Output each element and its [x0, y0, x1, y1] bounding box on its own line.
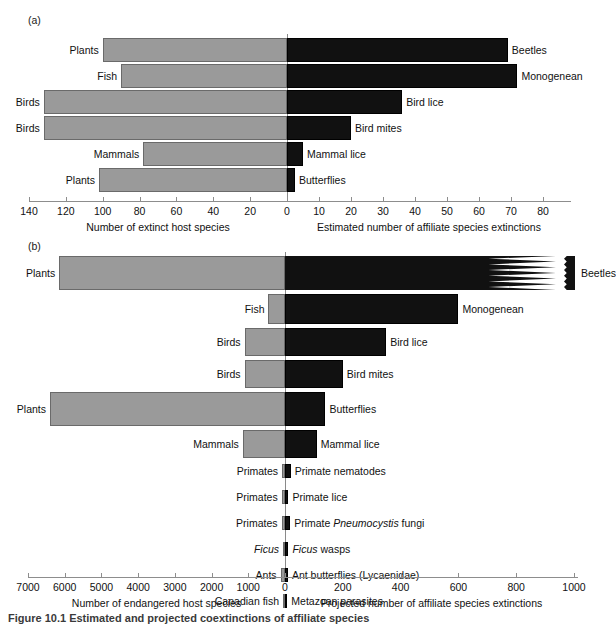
affiliate-bar-break-segment[interactable] — [564, 256, 575, 290]
axis-tick — [65, 573, 66, 577]
host-bar[interactable] — [44, 90, 287, 114]
affiliate-bar[interactable] — [285, 294, 458, 324]
x-axis-line — [28, 577, 578, 578]
host-bar[interactable] — [99, 168, 287, 192]
bar-row: FishMonogenean — [0, 64, 601, 88]
axis-tick — [138, 573, 139, 577]
affiliate-bar[interactable] — [287, 142, 303, 166]
axis-tick — [319, 197, 320, 201]
axis-tick — [29, 197, 30, 201]
affiliate-bar[interactable] — [285, 490, 288, 504]
host-bar[interactable] — [121, 64, 287, 88]
axis-tick — [285, 573, 286, 577]
affiliate-label: Primate nematodes — [295, 466, 386, 477]
host-bar[interactable] — [245, 360, 285, 388]
host-label: Mammals — [193, 439, 239, 450]
axis-tick — [212, 573, 213, 577]
host-bar[interactable] — [245, 328, 285, 356]
axis-tick — [175, 573, 176, 577]
host-bar[interactable] — [59, 256, 285, 290]
right-tick-400: 400 — [376, 581, 426, 593]
affiliate-label: Mammal lice — [307, 149, 366, 160]
panel-a: (a) PlantsBeetlesFishMonogeneanBirdsBird… — [0, 0, 601, 232]
axis-tick — [140, 197, 141, 201]
affiliate-bar[interactable] — [285, 392, 325, 426]
affiliate-label: Mammal lice — [321, 439, 380, 450]
host-label: Plants — [26, 268, 55, 279]
bar-row: BirdsBird lice — [0, 90, 601, 114]
axis-tick — [511, 197, 512, 201]
panel-b-label: (b) — [28, 240, 41, 252]
axis-tick — [543, 197, 544, 201]
affiliate-label: Bird mites — [347, 369, 394, 380]
host-label: Primates — [237, 466, 278, 477]
affiliate-bar[interactable] — [285, 542, 288, 556]
axis-tick — [103, 197, 104, 201]
affiliate-label: Monogenean — [521, 71, 582, 82]
affiliate-bar[interactable] — [287, 116, 351, 140]
figure-caption: Figure 10.1 Estimated and projected coex… — [8, 612, 601, 627]
affiliate-label: Bird lice — [390, 337, 427, 348]
affiliate-label: Bird lice — [406, 97, 443, 108]
host-bar[interactable] — [268, 294, 285, 324]
affiliate-bar[interactable] — [285, 360, 343, 388]
axis-tick — [66, 197, 67, 201]
host-bar[interactable] — [103, 38, 287, 62]
affiliate-bar[interactable] — [287, 168, 295, 192]
bar-row: PlantsButterflies — [0, 392, 601, 426]
affiliate-bar[interactable] — [287, 38, 508, 62]
affiliate-label: Beetles — [581, 268, 616, 279]
affiliate-bar[interactable] — [285, 328, 386, 356]
bar-row: PrimatesPrimate lice — [0, 490, 601, 504]
right-tick-600: 600 — [433, 581, 483, 593]
right-tick-800: 800 — [491, 581, 541, 593]
bar-row: MammalsMammal lice — [0, 430, 601, 458]
host-label: Birds — [16, 97, 40, 108]
host-label: Plants — [70, 45, 99, 56]
panel-a-label: (a) — [28, 14, 41, 26]
host-label: Plants — [66, 175, 95, 186]
affiliate-label: Butterflies — [329, 404, 376, 415]
host-bar[interactable] — [143, 142, 287, 166]
host-label: Plants — [17, 404, 46, 415]
host-label: Primates — [236, 492, 277, 503]
axis-tick — [447, 197, 448, 201]
axis-tick — [101, 573, 102, 577]
right-axis-title: Projected number of affiliate species ex… — [275, 597, 588, 609]
affiliate-bar[interactable] — [285, 256, 556, 290]
host-label: Birds — [16, 123, 40, 134]
host-bar[interactable] — [243, 430, 285, 458]
host-label: Birds — [217, 337, 241, 348]
host-bar[interactable] — [44, 116, 287, 140]
host-label: Fish — [97, 71, 117, 82]
axis-tick — [351, 197, 352, 201]
bar-row: PrimatesPrimate nematodes — [0, 464, 601, 478]
left-axis-title: Number of endangered host species — [18, 597, 295, 609]
affiliate-label: Beetles — [512, 45, 547, 56]
x-axis-line — [29, 201, 571, 202]
axis-tick — [516, 573, 517, 577]
bar-row: BirdsBird mites — [0, 360, 601, 388]
affiliate-label: Ficus wasps — [292, 544, 350, 555]
host-label: Birds — [217, 369, 241, 380]
right-tick-200: 200 — [318, 581, 368, 593]
axis-tick — [343, 573, 344, 577]
affiliate-label: Bird mites — [355, 123, 402, 134]
panel-b: (b) PlantsBeetlesFishMonogeneanBirdsBird… — [0, 232, 601, 602]
affiliate-bar[interactable] — [285, 516, 290, 530]
axis-tick — [250, 197, 251, 201]
affiliate-bar[interactable] — [285, 430, 317, 458]
right-tick-0: 0 — [260, 581, 310, 593]
affiliate-label: Butterflies — [299, 175, 346, 186]
bar-row: FicusFicus wasps — [0, 542, 601, 556]
affiliate-bar[interactable] — [285, 464, 291, 478]
bar-row: BirdsBird lice — [0, 328, 601, 356]
axis-tick — [287, 197, 288, 201]
host-bar[interactable] — [50, 392, 285, 426]
bar-row: PlantsBeetles — [0, 38, 601, 62]
host-label: Fish — [245, 304, 265, 315]
axis-tick — [458, 573, 459, 577]
affiliate-bar[interactable] — [287, 64, 517, 88]
affiliate-bar[interactable] — [287, 90, 402, 114]
